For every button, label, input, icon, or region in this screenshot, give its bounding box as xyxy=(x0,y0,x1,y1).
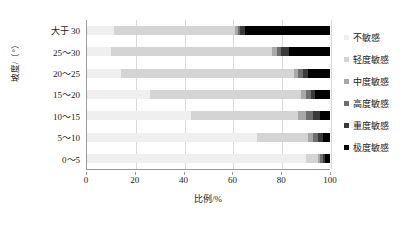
bar-segment[interactable] xyxy=(87,133,257,142)
bar-segment[interactable] xyxy=(87,154,306,163)
bar-segment[interactable] xyxy=(298,111,305,120)
y-axis-tick-labels: 大于 3025～3020～2515～2010～155～100～5 xyxy=(24,20,84,170)
stacked-bar[interactable] xyxy=(87,90,330,99)
y-axis-tick-label: 15～20 xyxy=(24,84,84,105)
legend-label: 极度敏感 xyxy=(353,141,389,154)
legend-swatch-icon xyxy=(344,57,349,62)
bar-segment[interactable] xyxy=(245,26,330,35)
bar-row xyxy=(87,41,330,62)
bar-row xyxy=(87,105,330,126)
bar-segment[interactable] xyxy=(257,133,308,142)
bar-segment[interactable] xyxy=(306,111,313,120)
plot-area xyxy=(86,20,330,170)
x-axis-tick-label: 20 xyxy=(130,175,139,185)
x-axis-tick-label: 80 xyxy=(277,175,286,185)
legend-swatch-icon xyxy=(344,145,349,150)
bar-segment[interactable] xyxy=(308,69,330,78)
legend-label: 中度敏感 xyxy=(353,75,389,88)
bar-row xyxy=(87,20,330,41)
y-axis-tick-label: 5～10 xyxy=(24,127,84,148)
stacked-bar[interactable] xyxy=(87,154,330,163)
legend-label: 轻度敏感 xyxy=(353,53,389,66)
bar-row xyxy=(87,63,330,84)
legend-swatch-icon xyxy=(344,79,349,84)
legend-item[interactable]: 重度敏感 xyxy=(344,114,410,136)
legend-label: 高度敏感 xyxy=(353,97,389,110)
bar-segment[interactable] xyxy=(289,47,330,56)
y-axis-tick-label: 大于 30 xyxy=(24,20,84,41)
legend-swatch-icon xyxy=(344,101,349,106)
legend-swatch-icon xyxy=(344,123,349,128)
bar-rows xyxy=(87,20,330,169)
x-axis-tick-label: 100 xyxy=(323,175,337,185)
legend-swatch-icon xyxy=(344,35,349,40)
bar-segment[interactable] xyxy=(111,47,271,56)
y-axis-title-text: 坡度/（°） xyxy=(8,40,20,82)
bar-segment[interactable] xyxy=(191,111,298,120)
x-axis-tick-label: 0 xyxy=(84,175,89,185)
bar-segment[interactable] xyxy=(306,154,318,163)
legend-item[interactable]: 不敏感 xyxy=(344,26,410,48)
legend-item[interactable]: 轻度敏感 xyxy=(344,48,410,70)
stacked-bar[interactable] xyxy=(87,47,330,56)
bar-segment[interactable] xyxy=(87,69,121,78)
bar-segment[interactable] xyxy=(320,111,330,120)
stacked-bar[interactable] xyxy=(87,111,330,120)
bar-segment[interactable] xyxy=(150,90,301,99)
bar-row xyxy=(87,126,330,147)
stacked-bar[interactable] xyxy=(87,133,330,142)
bar-segment[interactable] xyxy=(114,26,236,35)
y-axis-tick-label: 20～25 xyxy=(24,63,84,84)
bar-segment[interactable] xyxy=(313,111,320,120)
x-axis-ticks: 020406080100 xyxy=(86,172,330,186)
bar-row xyxy=(87,84,330,105)
x-axis-title: 比例/% xyxy=(86,192,330,205)
bar-segment[interactable] xyxy=(121,69,294,78)
legend-item[interactable]: 极度敏感 xyxy=(344,136,410,158)
gridline xyxy=(331,20,332,169)
bar-segment[interactable] xyxy=(315,90,330,99)
bar-segment[interactable] xyxy=(87,47,111,56)
x-axis-tick-label: 40 xyxy=(179,175,188,185)
y-axis-tick-label: 0～5 xyxy=(24,149,84,170)
bar-segment[interactable] xyxy=(325,154,330,163)
stacked-bar[interactable] xyxy=(87,69,330,78)
bar-segment[interactable] xyxy=(87,90,150,99)
x-axis-tick-label: 60 xyxy=(228,175,237,185)
legend: 不敏感轻度敏感中度敏感高度敏感重度敏感极度敏感 xyxy=(344,26,410,158)
stacked-bar[interactable] xyxy=(87,26,330,35)
bar-segment[interactable] xyxy=(323,133,330,142)
legend-label: 不敏感 xyxy=(353,31,380,44)
legend-item[interactable]: 高度敏感 xyxy=(344,92,410,114)
bar-segment[interactable] xyxy=(281,47,288,56)
legend-item[interactable]: 中度敏感 xyxy=(344,70,410,92)
y-axis-tick-label: 25～30 xyxy=(24,41,84,62)
y-axis-title: 坡度/（°） xyxy=(2,0,14,60)
legend-label: 重度敏感 xyxy=(353,119,389,132)
chart-figure: 坡度/（°） 大于 3025～3020～2515～2010～155～100～5 … xyxy=(0,0,411,231)
bar-segment[interactable] xyxy=(87,111,191,120)
bar-segment[interactable] xyxy=(87,26,114,35)
y-axis-tick-label: 10～15 xyxy=(24,106,84,127)
bar-row xyxy=(87,148,330,169)
